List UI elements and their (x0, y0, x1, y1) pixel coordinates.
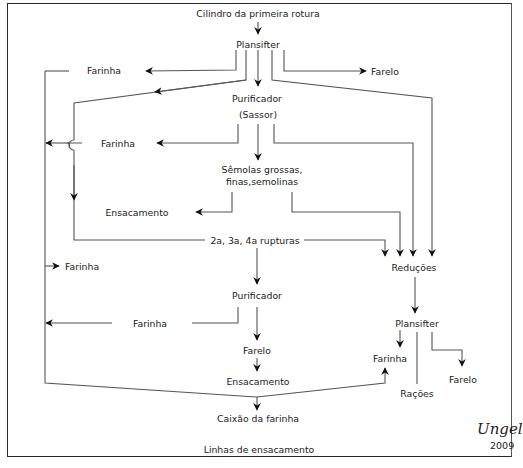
edge-purificador1-farinha2 (157, 124, 238, 143)
node-farinha1: Farinha (87, 65, 121, 76)
edge-left-arrow-mid (155, 80, 246, 92)
node-reducoes: Reduções (392, 262, 437, 273)
node-semolas-line2: finas,semolinas (226, 176, 298, 187)
node-cilindro: Cilindro da primeira rotura (196, 8, 319, 19)
node-racoes: Rações (400, 388, 433, 399)
node-plansifter2: Plansifter (395, 318, 439, 329)
signature-year: 2009 (490, 440, 514, 451)
node-farelo2: Farelo (243, 345, 271, 356)
node-plansifter1: Plansifter (236, 39, 280, 50)
node-linhas: Linhas de ensacamento (204, 444, 315, 455)
node-farelo3: Farelo (449, 374, 477, 385)
node-caixao: Caixão da farinha (217, 413, 299, 424)
node-farinha2: Farinha (101, 138, 135, 149)
node-farinha5: Farinha (373, 353, 407, 364)
edge-semolas-ensacamento1 (196, 192, 232, 212)
edge-semolas-reducoes (292, 192, 400, 256)
node-ensacamento2: Ensacamento (226, 376, 289, 387)
edge-plansifter-farinha1 (146, 50, 236, 71)
node-farinha4: Farinha (133, 318, 167, 329)
edge-plansifter-farelo1 (284, 50, 366, 71)
node-rupturas: 2a, 3a, 4a rupturas (210, 235, 299, 246)
node-semolas-line1: Sêmolas grossas, (222, 164, 303, 175)
node-farinha3: Farinha (65, 261, 99, 272)
node-ensacamento1: Ensacamento (105, 207, 168, 218)
edge-plansifter-reducoes (272, 50, 432, 256)
signature-name: Ungel (477, 420, 523, 438)
node-purificador1-line1: Purificador (232, 93, 282, 104)
node-purificador1-line2: (Sassor) (239, 109, 277, 120)
node-purificador2: Purificador (232, 290, 282, 301)
node-farelo1: Farelo (371, 66, 399, 77)
edge-rupturas-reducoes (304, 240, 385, 256)
